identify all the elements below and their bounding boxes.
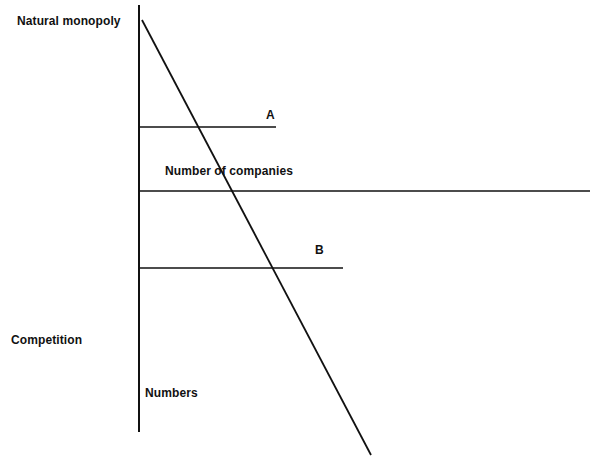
line-b-label: B: [315, 243, 324, 257]
natural-monopoly-label: Natural monopoly: [17, 14, 121, 28]
diagram-canvas: [0, 0, 598, 471]
number-of-companies-label: Number of companies: [165, 164, 293, 178]
competition-label: Competition: [11, 333, 82, 347]
numbers-label: Numbers: [145, 386, 198, 400]
line-a-label: A: [266, 108, 275, 122]
